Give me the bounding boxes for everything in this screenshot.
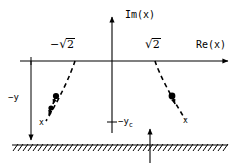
im-axis-label: Im(x) bbox=[125, 10, 155, 20]
minus-sign: − bbox=[50, 38, 59, 51]
right-endpoint-label: x bbox=[183, 117, 188, 125]
critical-depth-label: −yc bbox=[118, 117, 133, 129]
critical-depth-subscript: c bbox=[129, 121, 133, 129]
depth-label: −y bbox=[8, 93, 19, 102]
re-axis-label: Re(x) bbox=[196, 40, 226, 50]
radicand-positive: 2 bbox=[152, 38, 161, 50]
complex-plane-figure: Im(x) Re(x) −√2 √2 −y −yc x x bbox=[0, 0, 240, 164]
branch-point-negative-label: −√2 bbox=[50, 38, 75, 50]
left-endpoint-label: x bbox=[39, 119, 44, 127]
critical-depth-base: −y bbox=[118, 116, 129, 126]
figure-canvas bbox=[0, 0, 240, 164]
radicand-negative: 2 bbox=[66, 38, 75, 50]
right-trajectory-curve bbox=[155, 61, 185, 119]
branch-point-positive-label: √2 bbox=[145, 38, 161, 50]
